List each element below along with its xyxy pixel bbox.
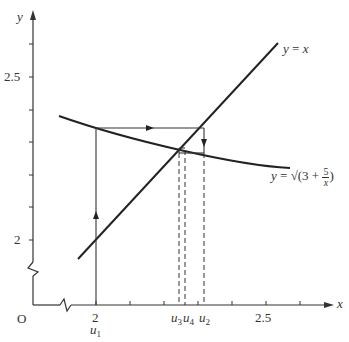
y-axis-label: y	[17, 10, 23, 23]
up-arrow-icon	[93, 211, 99, 219]
iterate-label-u2: u2	[199, 311, 210, 327]
y-tick-label-2: 2	[14, 233, 21, 246]
origin-label: O	[17, 312, 26, 325]
x-axis-label: x	[337, 297, 343, 310]
x-axis-arrow-icon	[324, 302, 334, 308]
dashed-drop-lines	[179, 150, 204, 305]
y-axis-arrow-icon	[30, 10, 36, 20]
iterate-label-u1: u1	[90, 323, 101, 339]
iterate-label-u3: u3	[171, 311, 182, 327]
identity-line	[78, 43, 278, 259]
cobweb-path	[96, 128, 204, 305]
y-tick-label-2-5: 2.5	[4, 70, 20, 83]
g-curve	[59, 116, 290, 168]
g-curve-label: y = √(3 + 5x)	[271, 167, 334, 188]
right-arrow-icon	[146, 125, 154, 131]
y-axis	[28, 18, 38, 305]
down-arrow-icon	[201, 139, 207, 147]
iterate-label-u4: u4	[183, 311, 194, 327]
identity-line-label: y = x	[283, 42, 308, 55]
x-tick-label-2-5: 2.5	[255, 311, 271, 324]
